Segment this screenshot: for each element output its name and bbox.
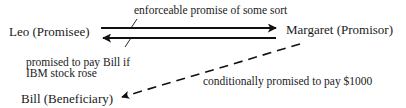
promised-label-line2: IBM stock rose [26, 68, 97, 80]
node-bill-beneficiary: Bill (Beneficiary) [21, 92, 113, 105]
enforceable-label-leader [131, 19, 137, 28]
node-leo-promisee: Leo (Promisee) [9, 25, 90, 38]
conditional-promise-arrow [122, 44, 300, 97]
promise-diagram: Leo (Promisee) Margaret (Promisor) Bill … [0, 0, 406, 108]
conditional-promise-label: conditionally promised to pay $1000 [203, 76, 372, 88]
node-margaret-promisor: Margaret (Promisor) [286, 23, 393, 36]
promised-label-leader [125, 38, 131, 47]
enforceable-promise-label: enforceable promise of some sort [134, 5, 287, 17]
